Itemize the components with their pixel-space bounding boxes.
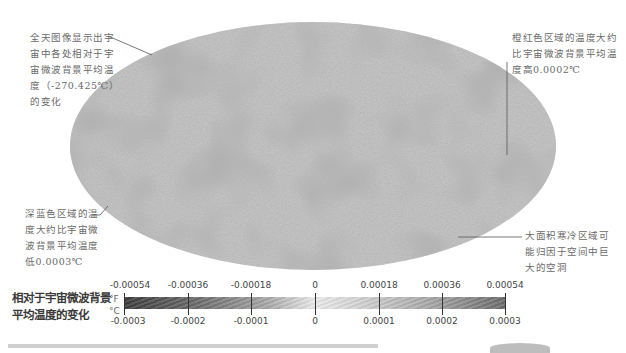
annotation-cold-spot-voids: 大面积寒冷区域可 能归因于空间中巨 大的空洞 <box>525 228 625 276</box>
tick-mark <box>188 293 189 315</box>
annotation-average-temperature: 全天图像显示出宇 宙中各处相对于宇 宙微波背景平均温 度（-270.425℃） … <box>30 30 115 110</box>
tick-mark <box>124 293 125 315</box>
tick-label-c: 0.0003 <box>489 316 521 326</box>
tick-mark <box>379 293 380 315</box>
tick-label-c: -0.0002 <box>171 316 206 326</box>
tick-label-f: -0.00054 <box>110 280 150 290</box>
tick-label-f: -0.00036 <box>168 280 208 290</box>
annotation-warm-regions: 橙红色区域的温度大约 比宇宙微波背景平均温 度高0.0002℃ <box>512 30 624 78</box>
tick-label-f: 0.00018 <box>360 280 397 290</box>
tick-label-f: 0 <box>312 280 318 290</box>
bottom-image-arc <box>490 343 550 353</box>
legend-title: 相对于宇宙微波背景平均温度的变化 <box>12 290 120 324</box>
tick-label-f: 0.00054 <box>486 280 523 290</box>
unit-fahrenheit: °F <box>109 294 119 304</box>
tick-label-c: 0.0002 <box>426 316 458 326</box>
tick-label-c: -0.0003 <box>111 316 146 326</box>
annotation-cold-regions: 深蓝色区域的温 度大约比宇宙微 波背景平均温度 低0.0003℃ <box>25 206 105 270</box>
tick-label-f: -0.00018 <box>231 280 271 290</box>
tick-mark <box>505 293 506 315</box>
tick-mark <box>315 293 316 315</box>
bottom-image-strip <box>8 344 378 348</box>
tick-label-c: -0.0001 <box>234 316 269 326</box>
unit-celsius: °C <box>109 306 120 316</box>
tick-label-c: 0 <box>312 316 318 326</box>
tick-mark <box>251 293 252 315</box>
tick-mark <box>442 293 443 315</box>
tick-label-f: 0.00036 <box>423 280 460 290</box>
tick-label-c: 0.0001 <box>363 316 395 326</box>
